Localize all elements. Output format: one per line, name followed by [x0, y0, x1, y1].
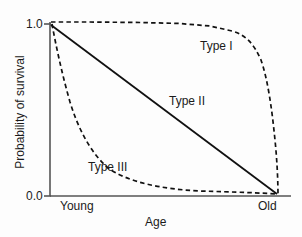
x-axis-tick-label-young: Young: [60, 199, 94, 213]
series-label-type-2: Type II: [169, 94, 205, 108]
series-type-2-line: [51, 25, 277, 194]
y-axis-tick-label-bottom: 0.0: [26, 189, 43, 203]
y-axis-tick-label-top: 1.0: [26, 17, 43, 31]
series-label-type-3: Type III: [88, 160, 127, 174]
series-label-type-1: Type I: [200, 39, 233, 53]
chart-canvas: [0, 0, 302, 237]
x-axis-tick-label-old: Old: [258, 199, 277, 213]
y-axis-title: Probability of survival: [13, 47, 27, 177]
x-axis-title: Age: [145, 215, 166, 229]
survivorship-curve-figure: 1.0 0.0 Young Old Age Probability of sur…: [0, 0, 302, 237]
